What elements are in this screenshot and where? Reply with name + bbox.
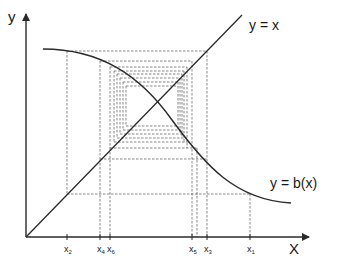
x-axis-label: X (289, 240, 299, 257)
x-tick-label: x4 (97, 244, 106, 255)
x-tick-label: x2 (64, 244, 73, 255)
identity-line-y-equals-x (26, 15, 242, 237)
x-tick-label: x3 (204, 244, 213, 255)
x-tick-label: x5 (189, 244, 198, 255)
cobweb-dashed-lines (67, 51, 250, 237)
y-axis-label: y (8, 8, 16, 25)
identity-line-label: y = x (249, 17, 279, 33)
x-tick-label: x1 (247, 244, 256, 255)
x-tick-label: x6 (107, 244, 116, 255)
curve-label: y = b(x) (270, 175, 317, 191)
cobweb-diagram: x2x4x6x5x3x1 y X y = x y = b(x) (0, 0, 338, 270)
